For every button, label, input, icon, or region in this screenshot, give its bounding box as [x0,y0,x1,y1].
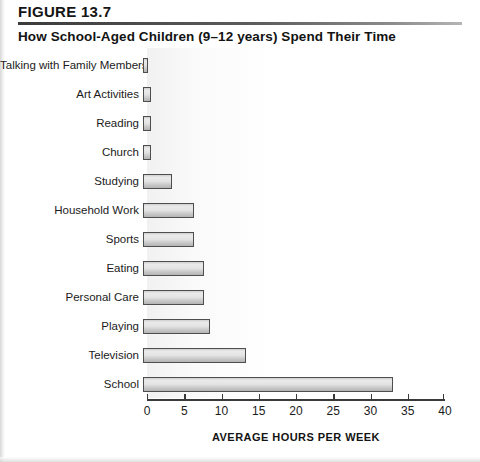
x-axis-tick [333,394,334,400]
bar-row: Television [0,341,480,370]
bar [143,348,246,363]
x-axis-tick [222,394,223,400]
bar [143,58,148,73]
bar-track [143,145,480,160]
bar [143,232,194,247]
category-label: Household Work [0,204,143,217]
bar-track [143,232,480,247]
bar-track [143,174,480,189]
bar-row: Art Activities [0,80,480,109]
bar-row: Talking with Family Members [0,51,480,80]
bar-track [143,58,480,73]
bar-track [143,116,480,131]
x-axis-tick [443,394,444,400]
category-label: Reading [0,117,143,130]
bar-row: Eating [0,254,480,283]
bar-track [143,348,480,363]
category-label: Personal Care [0,291,143,304]
x-axis-tick [184,394,185,400]
x-axis-tick-label: 40 [438,404,451,418]
bar-row: Studying [0,167,480,196]
header-divider-rule [18,22,462,25]
bar-track [143,377,480,392]
x-axis-title: AVERAGE HOURS PER WEEK [147,431,445,443]
x-axis-tick [371,394,372,400]
category-label: Studying [0,175,143,188]
bar-track [143,261,480,276]
bar-row: Household Work [0,196,480,225]
category-label: Art Activities [0,88,143,101]
bar-track [143,319,480,334]
bar [143,174,172,189]
x-axis-tick-label: 10 [215,404,228,418]
category-label: Talking with Family Members [0,59,143,72]
bar [143,87,151,102]
x-axis-tick [408,394,409,400]
x-axis-tick [259,394,260,400]
bar [143,290,204,305]
bar [143,145,151,160]
bar-chart: Talking with Family MembersArt Activitie… [0,48,480,462]
x-axis-tick-label: 25 [327,404,340,418]
category-label: Sports [0,233,143,246]
figure-number-label: FIGURE 13.7 [18,2,462,21]
x-axis-tick-label: 5 [181,404,188,418]
category-label: Eating [0,262,143,275]
bar-track [143,290,480,305]
bar-track [143,203,480,218]
bar-track [143,87,480,102]
bar-row: Church [0,138,480,167]
figure-title: How School-Aged Children (9–12 years) Sp… [18,28,462,46]
bar [143,116,151,131]
category-label: School [0,378,143,391]
bar [143,261,204,276]
bar [143,203,194,218]
category-label: Television [0,349,143,362]
bar-row: Personal Care [0,283,480,312]
x-axis-tick [147,394,148,400]
bar [143,377,393,392]
bar [143,319,210,334]
x-axis-tick-label: 0 [144,404,151,418]
bar-row: Sports [0,225,480,254]
bar-row: Playing [0,312,480,341]
figure-header: FIGURE 13.7 How School-Aged Children (9–… [18,2,462,46]
category-label: Church [0,146,143,159]
x-axis-tick-label: 30 [364,404,377,418]
x-axis-tick [296,394,297,400]
x-axis-tick-label: 20 [289,404,302,418]
category-label: Playing [0,320,143,333]
x-axis-tick-label: 15 [252,404,265,418]
bar-row: Reading [0,109,480,138]
x-axis-tick-label: 35 [401,404,414,418]
x-axis: 0510152025303540 [147,399,445,401]
